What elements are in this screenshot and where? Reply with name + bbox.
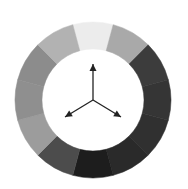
triad-arrows — [65, 64, 121, 117]
color-wheel-diagram — [0, 0, 188, 189]
arrowhead-icon — [90, 64, 97, 71]
